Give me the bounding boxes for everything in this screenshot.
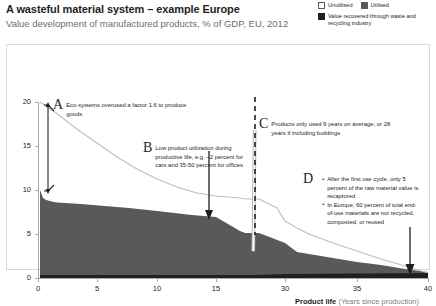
legend-swatch-utilised-icon	[361, 2, 368, 9]
legend-row-bottom: Value recovered through waste and recycl…	[318, 13, 436, 28]
x-tick-0	[38, 279, 39, 282]
x-axis-title: Product life (Years since production)	[295, 297, 419, 306]
chart-frame: 20 15 10 5 0 0 5 10 15 30 35 40 Product …	[6, 44, 430, 270]
annotation-b-text: Low product utilization during productiv…	[155, 144, 255, 170]
x-tick-40	[428, 279, 429, 282]
legend: Unutilised Utilised Value recovered thro…	[318, 2, 436, 31]
annotation-a-letter: A	[53, 98, 63, 112]
x-tick-label-0: 0	[26, 284, 50, 293]
legend-item-recovered: Value recovered through waste and recycl…	[318, 13, 420, 28]
x-tick-30	[285, 279, 286, 282]
x-tick-label-35: 35	[345, 284, 369, 293]
legend-swatch-recovered-icon	[318, 13, 325, 20]
legend-label-utilised: Utilised	[371, 2, 389, 10]
x-tick-10	[157, 279, 158, 282]
legend-row-top: Unutilised Utilised	[318, 2, 436, 10]
annotation-d: D After the first use cycle, only 5 perc…	[303, 175, 420, 226]
annotation-a: A Eco-systems overused a factor 1.6 to p…	[53, 101, 196, 118]
x-axis-title-bold: Product life	[295, 297, 336, 306]
x-tick-label-5: 5	[85, 284, 109, 293]
annotation-d-bullet-2: In Europe, 60 percent of total end-of-us…	[322, 201, 420, 227]
x-tick-label-10: 10	[145, 284, 169, 293]
legend-item-unutilised: Unutilised	[318, 2, 353, 10]
annotation-b-letter: B	[143, 141, 152, 155]
x-tick-label-15: 15	[204, 284, 228, 293]
x-tick-15	[216, 279, 217, 282]
y-tick-label-0: 0	[11, 273, 31, 282]
x-tick-35	[357, 279, 358, 282]
page-title: A wasteful material system – example Eur…	[6, 3, 240, 15]
annotation-b: B Low product utilization during product…	[143, 144, 255, 170]
page-subtitle: Value development of manufactured produc…	[6, 18, 288, 29]
x-tick-label-40: 40	[416, 284, 436, 293]
annotation-a-text: Eco-systems overused a factor 1.6 to pro…	[66, 101, 196, 118]
legend-label-recovered: Value recovered through waste and recycl…	[328, 13, 420, 28]
annotation-c-letter: C	[259, 117, 268, 131]
annotation-c: C Products only used 9 years on average,…	[259, 120, 401, 137]
legend-item-utilised: Utilised	[361, 2, 389, 10]
x-tick-label-30: 30	[273, 284, 297, 293]
legend-label-unutilised: Unutilised	[328, 2, 353, 10]
annotation-d-text: After the first use cycle, only 5 percen…	[316, 175, 420, 226]
x-tick-5	[97, 279, 98, 282]
x-axis-title-note: (Years since production)	[338, 297, 419, 306]
annotation-d-letter: D	[303, 172, 313, 186]
annotation-c-text: Products only used 9 years on average, o…	[271, 120, 401, 137]
annotation-d-bullet-1: After the first use cycle, only 5 percen…	[322, 175, 420, 201]
legend-swatch-unutilised-icon	[318, 2, 325, 9]
